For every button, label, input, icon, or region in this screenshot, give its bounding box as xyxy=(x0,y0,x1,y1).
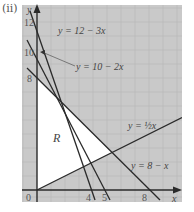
y-tick-10: 10 xyxy=(24,47,34,58)
x-tick-4: 4 xyxy=(86,192,91,203)
x-tick-8: 8 xyxy=(142,192,147,203)
region-label: R xyxy=(52,131,61,145)
label-half-x: y = ½x xyxy=(127,120,157,131)
y-tick-12: 12 xyxy=(24,17,34,28)
graph: y x 0 12 10 8 4 5 8 y = 12 − 3x y = 10 −… xyxy=(0,0,194,212)
label-10-minus-2x: y = 10 − 2x xyxy=(75,61,124,72)
label-12-minus-3x: y = 12 − 3x xyxy=(57,25,106,36)
y-axis-label: y xyxy=(26,4,32,15)
x-tick-5: 5 xyxy=(102,192,107,203)
x-axis-label: x xyxy=(171,193,177,204)
label-8-minus-x: y = 8 − x xyxy=(130,160,169,171)
origin-label: 0 xyxy=(26,192,31,203)
y-tick-8: 8 xyxy=(27,73,32,84)
